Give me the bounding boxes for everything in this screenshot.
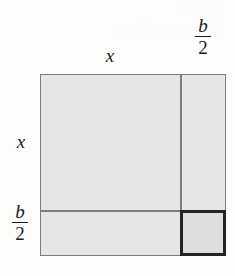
square-diagram <box>40 74 226 256</box>
label-left-bottom-fraction: b 2 <box>4 202 36 244</box>
fraction-denominator: 2 <box>195 37 211 57</box>
label-top-side-x: x <box>40 46 180 65</box>
fraction-numerator: b <box>195 16 211 37</box>
figure-container: Solve the equation x b 2 x b 2 <box>0 0 235 276</box>
fraction-denominator: 2 <box>12 223 28 243</box>
label-top-right-fraction: b 2 <box>180 16 226 58</box>
corner-square-region <box>180 210 226 256</box>
fraction-numerator: b <box>12 202 28 223</box>
fraction-b-over-2-left: b 2 <box>12 202 28 244</box>
label-left-side-x: x <box>8 132 34 151</box>
fraction-b-over-2-top: b 2 <box>195 16 211 58</box>
